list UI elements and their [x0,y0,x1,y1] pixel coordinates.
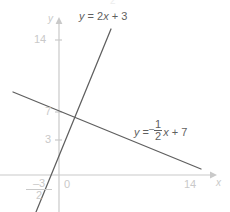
y-axis-label: y [48,14,53,24]
y-axis-arrowhead [56,17,63,24]
graph-figure: 2 y x 14 7 3 0 14 [0,0,230,212]
eq2-lhs: y [134,126,140,138]
origin-label: 0 [64,179,70,190]
equation-label-line2: y =–12x + 7 [134,119,187,142]
eq2-constant: 7 [181,126,187,138]
eq2-denominator: 2 [154,130,162,142]
eq1-equals: = [88,10,94,22]
y-tick-label-3: 3 [45,134,51,145]
eq2-operator: + [172,126,178,138]
eq1-lhs: y [79,10,85,22]
eq2-fraction: 12 [154,119,162,142]
x-axis-label: x [216,178,221,188]
x-intercept-fraction-label: –3 2 [26,178,52,201]
x-intercept-denominator: 2 [26,189,52,201]
eq1-operator: + [112,10,118,22]
x-tick-label-14: 14 [184,179,196,190]
eq2-numerator: 1 [154,119,162,130]
y-tick-label-7: 7 [45,106,51,117]
y-tick-label-14: 14 [34,34,46,45]
eq2-variable: x [163,126,169,138]
equation-label-line1: y = 2x + 3 [79,11,127,22]
x-intercept-numerator: 3 [39,177,45,189]
eq1-constant: 3 [121,10,127,22]
eq1-variable: x [103,10,109,22]
